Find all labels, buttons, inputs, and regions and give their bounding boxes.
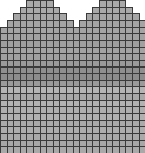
knitting-chart-grid [0, 0, 145, 153]
chart-cell [139, 146, 145, 153]
